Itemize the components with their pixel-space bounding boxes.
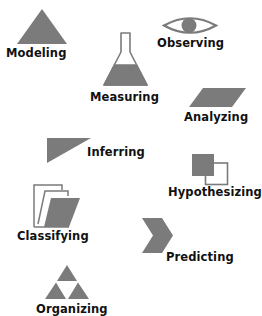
overlapping-squares-icon [192,154,229,186]
skill-label: Analyzing [184,112,248,124]
skill-label: Modeling [6,48,66,60]
triforce-icon [45,265,89,299]
skill-label: Observing [157,38,224,50]
right-triangle-icon [47,138,91,163]
skill-label: Organizing [36,304,108,316]
flask-icon [102,32,149,87]
triangle-icon [17,9,67,44]
chevron-icon [142,218,173,253]
skill-label: Inferring [87,147,145,159]
parallelogram-icon [189,88,246,107]
skill-label: Measuring [90,92,159,104]
skill-label: Predicting [166,252,234,264]
skill-label: Hypothesizing [168,187,262,199]
folder-icon [33,184,81,228]
skill-label: Classifying [17,231,89,243]
eye-icon [162,16,218,35]
